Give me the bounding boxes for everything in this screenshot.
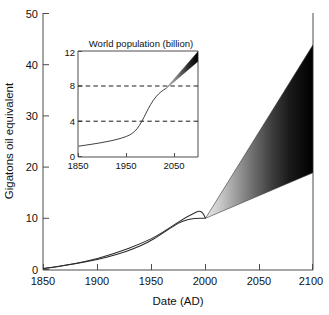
y-tick-label-0: 0 xyxy=(32,264,38,276)
inset-background xyxy=(78,51,198,157)
y-tick-label-10: 10 xyxy=(26,212,38,224)
x-tick-label-1950: 1950 xyxy=(139,275,163,287)
inset-x-label-2050: 2050 xyxy=(163,160,184,171)
x-tick-label-1900: 1900 xyxy=(85,275,109,287)
x-tick-label-2000: 2000 xyxy=(193,275,217,287)
x-tick-label-1850: 1850 xyxy=(31,275,55,287)
chart-canvas: 0 10 20 30 40 50 Gigatons oil equivalent… xyxy=(0,0,329,315)
inset-x-label-1850: 1850 xyxy=(67,160,88,171)
x-axis-title: Date (AD) xyxy=(152,295,203,307)
y-tick-label-20: 20 xyxy=(26,161,38,173)
chart-figure: 0 10 20 30 40 50 Gigatons oil equivalent… xyxy=(0,0,329,315)
inset-panel: World population (billion) 0 4 8 12 1850… xyxy=(64,38,198,171)
inset-title: World population (billion) xyxy=(89,38,193,49)
x-tick-label-2050: 2050 xyxy=(247,275,271,287)
y-tick-label-50: 50 xyxy=(26,8,38,20)
inset-x-label-1950: 1950 xyxy=(115,160,136,171)
inset-y-label-4: 4 xyxy=(70,116,75,127)
x-tick-label-2100: 2100 xyxy=(299,275,323,287)
y-axis-title: Gigatons oil equivalent xyxy=(3,82,15,199)
inset-y-label-8: 8 xyxy=(70,80,75,91)
y-tick-label-40: 40 xyxy=(26,59,38,71)
y-tick-label-30: 30 xyxy=(26,110,38,122)
inset-y-label-12: 12 xyxy=(64,47,75,58)
